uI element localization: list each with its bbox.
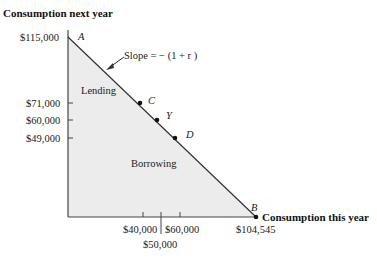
budget-line-chart: Consumption next year Consumption this y…	[0, 0, 377, 261]
borrowing-region-label: Borrowing	[131, 158, 177, 169]
point-d	[173, 136, 178, 141]
y-tick-label-49000: $49,000	[26, 133, 60, 144]
x-tick-label-40000: $40,000	[123, 224, 157, 235]
point-c	[138, 101, 143, 106]
point-y-label: Y	[166, 110, 173, 121]
slope-arrow-head	[106, 63, 114, 70]
x-tick-label-50000: $50,000	[143, 239, 177, 250]
point-d-label: D	[185, 129, 194, 140]
point-b-label: B	[251, 202, 258, 213]
y-tick-label-60000: $60,000	[26, 115, 60, 126]
lending-region-label: Lending	[81, 85, 117, 96]
x-axis-label: Consumption this year	[262, 211, 369, 223]
x-tick-label-104545: $104,545	[236, 224, 275, 235]
x-tick-label-60000: $60,000	[165, 224, 199, 235]
point-a-label: A	[77, 31, 85, 42]
point-y	[155, 118, 160, 123]
y-axis-label: Consumption next year	[3, 7, 113, 19]
point-c-label: C	[148, 95, 156, 106]
y-tick-label-71000: $71,000	[26, 98, 60, 109]
y-tick-label-115000: $115,000	[20, 32, 59, 43]
slope-annotation: Slope = − (1 + r )	[124, 50, 198, 62]
point-b	[254, 215, 259, 220]
